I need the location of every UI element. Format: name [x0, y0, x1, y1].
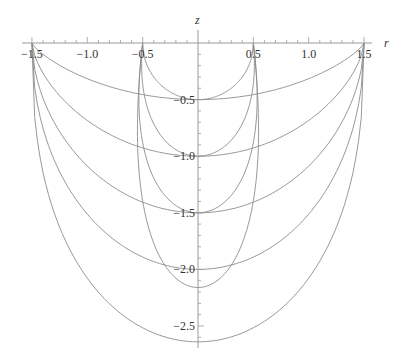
z-tick-label: −2.5	[173, 319, 195, 333]
r-axis-label: r	[384, 36, 389, 50]
z-tick-label: −1.0	[173, 149, 195, 163]
z-axis-ticks: −0.5−1.0−1.5−2.0−2.5	[173, 54, 204, 337]
z-tick-label: −2.0	[173, 262, 195, 276]
r-tick-label: −0.5	[132, 47, 154, 61]
z-tick-label: −1.5	[173, 206, 195, 220]
r-tick-label: −1.5	[21, 47, 43, 61]
r-tick-label: 1.0	[301, 47, 316, 61]
z-axis-label: z	[194, 13, 200, 27]
axes-group: −1.5−1.0−0.50.51.01.5 −0.5−1.0−1.5−2.0−2…	[21, 13, 389, 348]
r-tick-label: 1.5	[357, 47, 372, 61]
r-axis-ticks: −1.5−1.0−0.50.51.01.5	[21, 37, 371, 61]
plot-area: −1.5−1.0−0.50.51.01.5 −0.5−1.0−1.5−2.0−2…	[0, 0, 412, 363]
r-tick-label: −1.0	[76, 47, 98, 61]
r-tick-label: 0.5	[246, 47, 261, 61]
z-tick-label: −0.5	[173, 93, 195, 107]
